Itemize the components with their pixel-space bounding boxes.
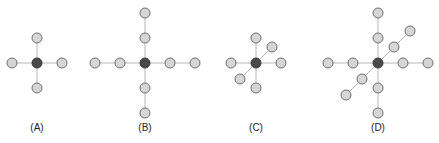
neighbor-node-diag-down-left-1 — [357, 74, 367, 84]
neighbor-node-up-1 — [140, 33, 150, 43]
neighbor-node-right-2 — [190, 58, 200, 68]
neighbor-node-up-2 — [140, 8, 150, 18]
neighbor-node-right-1 — [165, 58, 175, 68]
neighbor-node-right-1 — [57, 58, 67, 68]
neighbor-node-down-1 — [251, 83, 261, 93]
neighbor-node-diag-up-right-1 — [267, 42, 277, 52]
neighbor-node-right-2 — [423, 58, 433, 68]
center-node — [373, 58, 383, 68]
neighbor-node-up-2 — [373, 8, 383, 18]
neighbor-node-right-1 — [276, 58, 286, 68]
center-node — [140, 58, 150, 68]
panel-b: (B) — [90, 8, 200, 133]
neighbor-node-down-1 — [32, 83, 42, 93]
panel-d: (D) — [323, 8, 433, 133]
center-node — [251, 58, 261, 68]
neighbor-node-down-1 — [373, 83, 383, 93]
panel-a: (A) — [7, 33, 67, 133]
neighbor-node-diag-up-right-1 — [389, 42, 399, 52]
panel-label: (A) — [30, 122, 43, 133]
neighbor-node-diag-down-left-1 — [235, 74, 245, 84]
neighbor-node-down-1 — [140, 83, 150, 93]
panel-c: (C) — [226, 33, 286, 133]
center-node — [32, 58, 42, 68]
neighbor-node-up-1 — [32, 33, 42, 43]
neighbor-node-up-1 — [373, 33, 383, 43]
neighbor-node-left-1 — [348, 58, 358, 68]
neighbor-node-down-2 — [140, 108, 150, 118]
neighbor-node-down-2 — [373, 108, 383, 118]
neighbor-node-left-2 — [323, 58, 333, 68]
neighbor-node-left-1 — [226, 58, 236, 68]
neighbor-node-up-1 — [251, 33, 261, 43]
panel-label: (D) — [371, 122, 385, 133]
neighbor-node-diag-up-right-2 — [405, 26, 415, 36]
panel-label: (C) — [249, 122, 263, 133]
neighbor-node-left-1 — [115, 58, 125, 68]
neighbor-node-right-1 — [398, 58, 408, 68]
neighbor-node-left-2 — [90, 58, 100, 68]
neighbor-node-left-1 — [7, 58, 17, 68]
panel-label: (B) — [138, 122, 151, 133]
neighborhood-diagram: (A) (B) (C) (D) — [0, 0, 439, 143]
neighbor-node-diag-down-left-2 — [341, 90, 351, 100]
